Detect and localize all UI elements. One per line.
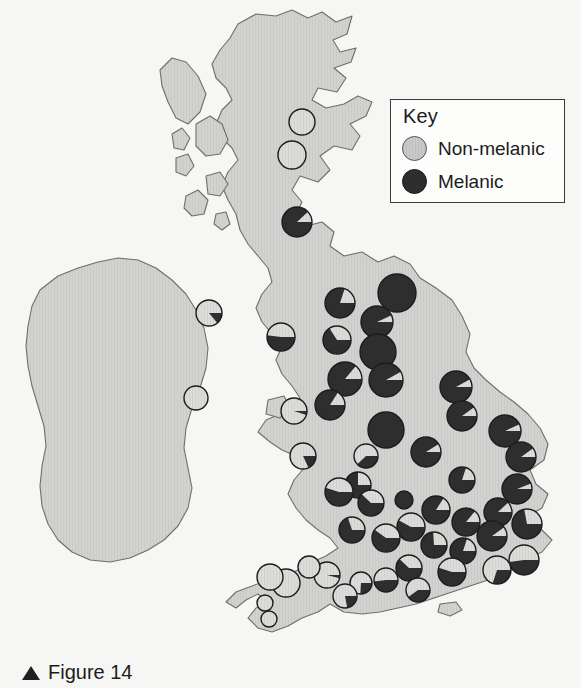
caption-triangle-icon (22, 666, 40, 680)
key-item-melanic: Melanic (402, 169, 503, 194)
pie-chart-site (315, 390, 345, 420)
pie-chart-site (397, 513, 425, 541)
pie-chart-site (196, 300, 222, 326)
key-label-melanic: Melanic (438, 171, 503, 193)
pie-chart-site (452, 508, 480, 536)
pie-chart-site (358, 490, 384, 516)
pie-chart-site (438, 558, 466, 586)
key-title: Key (403, 105, 438, 128)
pie-chart-site (447, 401, 477, 431)
pie-chart-site (378, 274, 416, 312)
figure-caption: Figure 14 (22, 661, 133, 684)
key-label-non-melanic: Non-melanic (438, 138, 545, 160)
pie-chart-site (289, 109, 315, 135)
pie-chart-site (323, 326, 351, 354)
pie-chart-site (325, 288, 355, 318)
pie-chart-site (483, 556, 511, 584)
pie-chart-site (372, 524, 400, 552)
pie-chart-site (396, 555, 422, 581)
pie-chart-site (281, 398, 307, 424)
pie-chart-site (509, 545, 539, 575)
pie-chart-site (374, 568, 398, 592)
pie-chart-site (395, 491, 413, 509)
pie-chart-site (325, 478, 353, 506)
non-melanic-swatch-icon (402, 136, 427, 161)
pie-chart-site (339, 517, 365, 543)
melanic-swatch-icon (402, 169, 427, 194)
ireland-landmass (26, 258, 208, 562)
pie-chart-site (477, 521, 507, 551)
pie-chart-site (282, 207, 312, 237)
pie-chart-site (298, 556, 320, 578)
pie-chart-site (422, 496, 450, 524)
pie-chart-site (278, 141, 306, 169)
pie-chart-site (449, 467, 475, 493)
caption-label: Figure 14 (48, 661, 133, 684)
figure-moth-distribution-map: Key Non-melanic Melanic Figure 14 (0, 0, 581, 688)
pie-chart-site (267, 323, 295, 351)
pie-chart-site (506, 442, 536, 472)
pie-chart-site (354, 444, 378, 468)
pie-chart-site (368, 412, 404, 448)
pie-chart-site (411, 437, 441, 467)
pie-chart-site (512, 509, 542, 539)
pie-chart-site (369, 363, 403, 397)
key-item-non-melanic: Non-melanic (402, 136, 545, 161)
pie-chart-site (333, 584, 357, 608)
pie-chart-site (290, 443, 316, 469)
pie-chart-site (261, 611, 277, 627)
pie-chart-site (361, 306, 393, 338)
key-box: Key Non-melanic Melanic (390, 99, 565, 203)
pie-chart-site (421, 532, 447, 558)
pie-chart-site (257, 595, 273, 611)
pie-chart-site (440, 371, 472, 403)
pie-chart-site (184, 386, 208, 410)
pie-chart-site (406, 578, 430, 602)
pie-chart-site (257, 564, 283, 590)
pie-chart-site (502, 474, 532, 504)
